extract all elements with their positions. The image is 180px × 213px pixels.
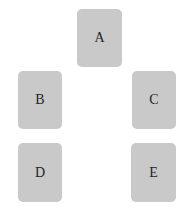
- card-e[interactable]: E: [131, 143, 176, 202]
- card-c-label: C: [149, 92, 158, 108]
- card-b[interactable]: B: [18, 71, 62, 129]
- card-a[interactable]: A: [77, 9, 122, 67]
- card-e-label: E: [149, 165, 158, 181]
- card-d[interactable]: D: [18, 143, 62, 202]
- card-d-label: D: [35, 165, 45, 181]
- card-b-label: B: [35, 92, 44, 108]
- card-a-label: A: [94, 30, 104, 46]
- card-c[interactable]: C: [132, 71, 176, 129]
